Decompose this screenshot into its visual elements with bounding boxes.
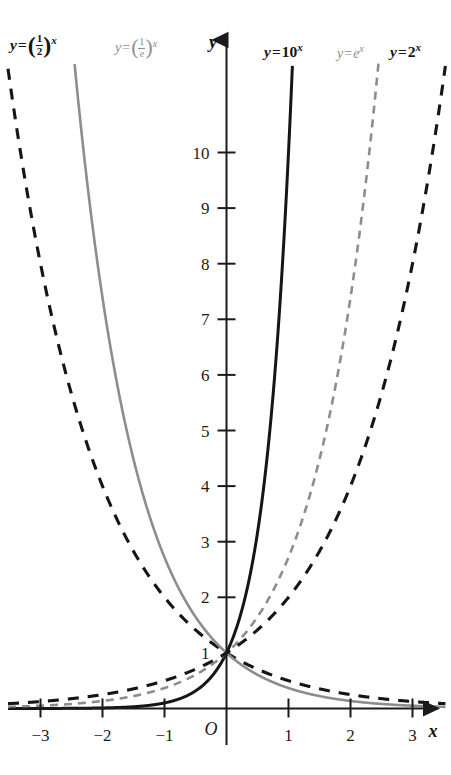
y-ticks-group: 12345678910 bbox=[193, 144, 236, 663]
curve-10 bbox=[8, 66, 292, 709]
exponential-functions-figure: −3−2−1123 12345678910 y x O y=(12)x y=(1… bbox=[0, 0, 451, 775]
paren-close: ) bbox=[43, 33, 51, 57]
fraction-numerator: 1 bbox=[138, 37, 145, 48]
curve-label-two: y=2x bbox=[390, 42, 421, 60]
curve-label-y: y bbox=[10, 36, 17, 53]
x-tick-label: 3 bbox=[408, 726, 417, 745]
curve-label-one-half: y=(12)x bbox=[10, 34, 57, 58]
x-axis-label: x bbox=[428, 721, 438, 741]
x-tick-label: −2 bbox=[93, 726, 111, 745]
origin-label: O bbox=[205, 719, 218, 739]
curve-label-ten: y=10x bbox=[264, 42, 303, 60]
y-tick-label: 10 bbox=[193, 144, 210, 163]
curve-0.36787944117 bbox=[75, 64, 446, 707]
x-tick-label: −1 bbox=[155, 726, 173, 745]
y-tick-label: 8 bbox=[201, 255, 210, 274]
y-tick-label: 7 bbox=[201, 310, 210, 329]
fraction-denominator: 2 bbox=[36, 45, 44, 58]
curve-label-exponent: x bbox=[297, 41, 303, 53]
curve-label-one-over-e: y=(1e)x bbox=[115, 38, 157, 60]
y-tick-label: 2 bbox=[201, 588, 210, 607]
curve-label-equals: = bbox=[271, 43, 282, 60]
curve-label-equals: = bbox=[397, 43, 408, 60]
curve-label-y: y bbox=[390, 43, 397, 60]
curve-label-y: y bbox=[264, 43, 271, 60]
curve-label-e: y=ex bbox=[337, 44, 364, 61]
y-axis-label: y bbox=[207, 32, 218, 52]
curve-label-exponent: x bbox=[359, 43, 363, 54]
paren-close: ) bbox=[145, 37, 152, 59]
curve-label-equals: = bbox=[343, 46, 353, 61]
curve-label-exponent: x bbox=[415, 41, 421, 53]
fraction-numerator: 1 bbox=[36, 33, 44, 45]
y-tick-label: 6 bbox=[201, 366, 210, 385]
x-tick-label: 2 bbox=[346, 726, 355, 745]
curve-label-exponent: x bbox=[153, 38, 157, 49]
curve-label-equals: = bbox=[17, 36, 28, 53]
y-tick-label: 9 bbox=[201, 199, 210, 218]
fraction-one-over-e: 1e bbox=[138, 37, 145, 59]
x-ticks-group: −3−2−1123 bbox=[31, 699, 416, 745]
x-tick-label: −3 bbox=[31, 726, 49, 745]
y-tick-label: 4 bbox=[201, 477, 210, 496]
fraction-one-half: 12 bbox=[36, 33, 44, 57]
curve-label-equals: = bbox=[121, 40, 131, 55]
fraction-denominator: e bbox=[138, 48, 145, 60]
paren-open: ( bbox=[28, 33, 36, 57]
curve-label-base: 10 bbox=[282, 43, 298, 60]
curve-label-exponent: x bbox=[51, 34, 57, 46]
paren-open: ( bbox=[131, 37, 138, 59]
y-tick-label: 5 bbox=[201, 422, 210, 441]
y-tick-label: 3 bbox=[201, 533, 210, 552]
y-tick-label: 1 bbox=[201, 644, 210, 663]
x-tick-label: 1 bbox=[284, 726, 293, 745]
chart-canvas: −3−2−1123 12345678910 y x O bbox=[0, 0, 451, 775]
axes-group bbox=[10, 40, 438, 745]
